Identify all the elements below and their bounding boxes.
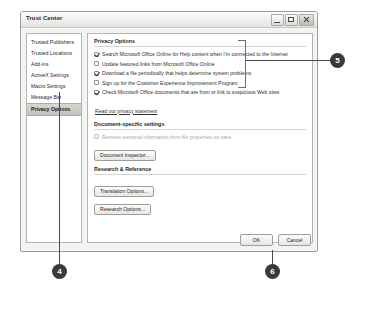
ok-button[interactable]: OK <box>240 234 273 246</box>
dialog-title: Trust Center <box>26 15 63 21</box>
checkbox-row-customer-experience-program[interactable]: Sign up for the Customer Experience Impr… <box>94 80 306 87</box>
translation-options-button[interactable]: Translation Options... <box>94 186 154 197</box>
sidebar-item-add-ins[interactable]: Add-ins <box>27 59 81 70</box>
callout-5: 5 <box>330 53 345 68</box>
close-icon[interactable] <box>299 14 314 26</box>
sidebar-item-privacy-options[interactable]: Privacy Options <box>27 103 81 116</box>
checkbox-row-search-office-online[interactable]: Search Microsoft Office Online for Help … <box>94 51 306 58</box>
sidebar-item-message-bar[interactable]: Message Bar <box>27 92 81 103</box>
callout-4: 4 <box>52 264 67 279</box>
remove-personal-information-checkbox <box>94 134 99 139</box>
check-suspicious-sites-label: Check Microsoft Office documents that ar… <box>102 89 279 95</box>
settings-pane: Privacy Options Search Microsoft Office … <box>87 33 313 243</box>
trust-center-dialog: Trust Center Trusted Publishers Trusted … <box>20 11 318 252</box>
sidebar-item-trusted-locations[interactable]: Trusted Locations <box>27 48 81 59</box>
callout-6-leader <box>272 250 273 264</box>
privacy-statement-link[interactable]: Read our privacy statement <box>95 108 157 114</box>
research-reference-divider <box>94 174 306 175</box>
research-reference-heading: Research & Reference <box>94 166 306 172</box>
window-controls <box>271 14 314 26</box>
checkbox-row-check-suspicious-sites[interactable]: Check Microsoft Office documents that ar… <box>94 89 306 96</box>
remove-personal-information-label: Remove personal information from file pr… <box>102 134 231 140</box>
search-office-online-checkbox[interactable] <box>94 52 99 57</box>
dialog-titlebar: Trust Center <box>21 12 317 28</box>
screenshot-canvas: Trust Center Trusted Publishers Trusted … <box>0 0 367 319</box>
check-suspicious-sites-checkbox[interactable] <box>94 90 99 95</box>
document-specific-settings-divider <box>94 129 306 130</box>
research-options-button[interactable]: Research Options... <box>94 204 151 215</box>
search-office-online-label: Search Microsoft Office Online for Help … <box>102 51 288 57</box>
customer-experience-program-label: Sign up for the Customer Experience Impr… <box>102 80 238 86</box>
update-featured-links-checkbox[interactable] <box>94 61 99 66</box>
update-featured-links-label: Update featured links from Microsoft Off… <box>102 61 215 67</box>
checkbox-row-remove-personal-information: Remove personal information from file pr… <box>94 134 306 141</box>
callout-4-leader <box>59 92 60 264</box>
callout-5-bracket <box>238 40 246 88</box>
checkbox-row-download-file-periodically[interactable]: Download a file periodically that helps … <box>94 70 306 77</box>
sidebar-item-trusted-publishers[interactable]: Trusted Publishers <box>27 37 81 48</box>
maximize-icon[interactable] <box>285 14 298 26</box>
callout-5-leader <box>246 60 330 61</box>
dialog-footer: OK Cancel <box>240 234 311 246</box>
customer-experience-program-checkbox[interactable] <box>94 80 99 85</box>
download-file-periodically-checkbox[interactable] <box>94 71 99 76</box>
privacy-options-heading: Privacy Options <box>94 38 306 44</box>
minimize-icon[interactable] <box>271 14 284 26</box>
document-inspector-button[interactable]: Document Inspector... <box>94 150 156 161</box>
cancel-button[interactable]: Cancel <box>278 234 311 246</box>
privacy-options-divider <box>94 46 306 47</box>
sidebar-item-activex-settings[interactable]: ActiveX Settings <box>27 70 81 81</box>
document-specific-settings-heading: Document-specific settings <box>94 121 306 127</box>
callout-6: 6 <box>265 264 280 279</box>
sidebar-item-macro-settings[interactable]: Macro Settings <box>27 81 81 92</box>
category-sidebar: Trusted Publishers Trusted Locations Add… <box>26 33 82 243</box>
download-file-periodically-label: Download a file periodically that helps … <box>102 70 251 76</box>
checkbox-row-update-featured-links[interactable]: Update featured links from Microsoft Off… <box>94 61 306 68</box>
